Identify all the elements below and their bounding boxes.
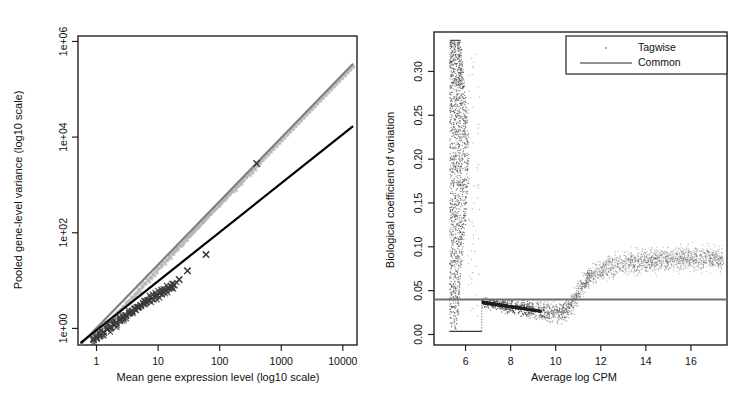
tagwise-point xyxy=(453,240,454,241)
tagwise-point xyxy=(584,292,585,293)
tagwise-point xyxy=(702,256,703,257)
tagwise-point xyxy=(630,262,631,263)
tagwise-point xyxy=(608,264,609,265)
tagwise-point xyxy=(577,302,578,303)
tagwise-point xyxy=(638,260,639,261)
tagwise-point xyxy=(459,285,460,286)
tagwise-point xyxy=(667,255,668,256)
tagwise-point xyxy=(703,263,704,264)
tagwise-point xyxy=(471,259,472,260)
tagwise-point xyxy=(523,305,524,306)
data-point-gray xyxy=(160,265,163,268)
tagwise-point xyxy=(453,227,454,228)
tagwise-point xyxy=(462,224,463,225)
tagwise-point xyxy=(451,234,452,235)
tagwise-point xyxy=(685,266,686,267)
tagwise-point xyxy=(467,160,468,161)
tagwise-point xyxy=(673,258,674,259)
tagwise-point xyxy=(474,202,475,203)
tagwise-point xyxy=(463,134,464,135)
tagwise-point xyxy=(458,125,459,126)
tagwise-point xyxy=(478,133,479,134)
tagwise-point xyxy=(466,112,467,113)
tagwise-point xyxy=(454,42,455,43)
tagwise-point xyxy=(501,311,502,312)
tagwise-point xyxy=(452,201,453,202)
tagwise-point xyxy=(666,262,667,263)
tagwise-point xyxy=(676,251,677,252)
tagwise-point xyxy=(457,77,458,78)
tagwise-point xyxy=(467,168,468,169)
tagwise-point xyxy=(615,259,616,260)
tagwise-point xyxy=(455,277,456,278)
tagwise-point xyxy=(457,113,458,114)
tagwise-point xyxy=(586,277,587,278)
tagwise-point xyxy=(504,301,505,302)
tagwise-point xyxy=(573,294,574,295)
tagwise-point xyxy=(513,310,514,311)
tagwise-point xyxy=(702,262,703,263)
tagwise-point xyxy=(630,253,631,254)
tagwise-point xyxy=(625,270,626,271)
tagwise-point xyxy=(452,108,453,109)
tagwise-point xyxy=(455,233,456,234)
tagwise-point xyxy=(457,175,458,176)
tagwise-point xyxy=(701,257,702,258)
tagwise-point xyxy=(453,253,454,254)
tagwise-point xyxy=(459,150,460,151)
tagwise-point xyxy=(456,215,457,216)
tagwise-point xyxy=(645,262,646,263)
tagwise-point xyxy=(464,185,465,186)
tagwise-point xyxy=(599,270,600,271)
tagwise-point xyxy=(682,262,683,263)
tagwise-point xyxy=(460,182,461,183)
tagwise-point xyxy=(452,182,453,183)
tagwise-point xyxy=(460,243,461,244)
tagwise-point xyxy=(647,266,648,267)
tagwise-point xyxy=(531,315,532,316)
tagwise-point xyxy=(459,222,460,223)
tagwise-point xyxy=(449,231,450,232)
tagwise-point xyxy=(682,264,683,265)
tagwise-point xyxy=(452,306,453,307)
tagwise-point xyxy=(650,260,651,261)
tagwise-point xyxy=(676,253,677,254)
tagwise-point xyxy=(712,249,713,250)
tagwise-point xyxy=(643,265,644,266)
tagwise-point xyxy=(570,295,571,296)
tagwise-point xyxy=(643,253,644,254)
tagwise-point xyxy=(557,317,558,318)
tagwise-point xyxy=(673,249,674,250)
tagwise-point xyxy=(467,191,468,192)
tagwise-point xyxy=(557,322,558,323)
tagwise-point xyxy=(705,257,706,258)
tagwise-point xyxy=(624,252,625,253)
tagwise-point xyxy=(712,264,713,265)
tagwise-point xyxy=(451,312,452,313)
tagwise-point xyxy=(684,268,685,269)
tagwise-point xyxy=(675,260,676,261)
tagwise-point xyxy=(705,253,706,254)
tagwise-point xyxy=(457,181,458,182)
data-point-gray xyxy=(249,174,252,177)
tagwise-point xyxy=(460,169,461,170)
tagwise-point xyxy=(577,295,578,296)
tagwise-point xyxy=(451,106,452,107)
tagwise-point xyxy=(459,265,460,266)
tagwise-point xyxy=(457,270,458,271)
tagwise-point xyxy=(638,273,639,274)
tagwise-point xyxy=(453,322,454,323)
tagwise-point xyxy=(570,314,571,315)
tagwise-point xyxy=(721,248,722,249)
tagwise-point xyxy=(721,268,722,269)
tagwise-point xyxy=(464,142,465,143)
tagwise-point xyxy=(453,288,454,289)
tagwise-point xyxy=(608,260,609,261)
tagwise-point xyxy=(460,116,461,117)
tagwise-point xyxy=(569,311,570,312)
tagwise-point xyxy=(454,178,455,179)
tagwise-point xyxy=(556,304,557,305)
tagwise-point xyxy=(673,270,674,271)
tagwise-point xyxy=(633,266,634,267)
tagwise-point xyxy=(461,249,462,250)
